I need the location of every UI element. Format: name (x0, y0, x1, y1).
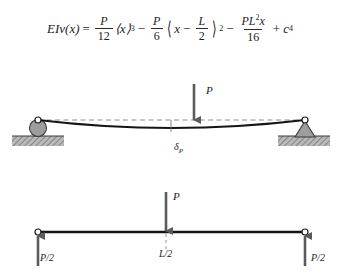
deflected-beam-diagram (12, 84, 330, 146)
deflected-beam-curve (38, 120, 305, 128)
fbd-left-hinge (35, 229, 41, 235)
right-beam-hinge (302, 117, 308, 123)
fbd-right-hinge (302, 229, 308, 235)
fbd-load-label: P (173, 190, 180, 202)
fbd-right-reaction-label: P/2 (311, 252, 325, 263)
fbd-span-label: L/2 (159, 248, 172, 259)
left-beam-hinge (35, 117, 41, 123)
beam-deflection-figure: EIv(x) = P 12 ⟨x⟩3 − P 6 ⟨ x − L 2 (0, 0, 340, 276)
beam-diagrams-svg (0, 0, 340, 276)
deflection-subscript: P (179, 147, 183, 155)
deflected-beam-load-label: P (206, 84, 213, 96)
left-ground-hatch (12, 136, 64, 146)
deflection-label: δP (174, 141, 183, 155)
fbd-left-reaction-label: P/2 (40, 252, 54, 263)
